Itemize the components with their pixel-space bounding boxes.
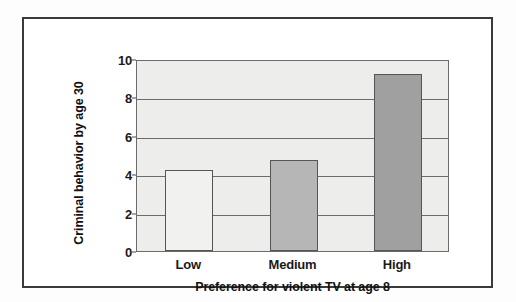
- y-axis-title: Criminal behavior by age 30: [72, 67, 86, 259]
- x-tick-label-high: High: [383, 257, 411, 272]
- x-tick-label-medium: Medium: [269, 257, 317, 272]
- y-axis-ticks: 0246810: [102, 60, 132, 252]
- bar-medium: [270, 160, 318, 251]
- y-tick-label: 0: [106, 245, 132, 260]
- y-tick-label: 4: [106, 168, 132, 183]
- x-axis-ticks: LowMediumHigh: [136, 257, 449, 277]
- chart-outer-frame: Criminal behavior by age 30 0246810 LowM…: [22, 17, 493, 288]
- y-tick-label: 6: [106, 129, 132, 144]
- y-tick-label: 2: [106, 206, 132, 221]
- x-tick-label-low: Low: [175, 257, 200, 272]
- bar-high: [374, 74, 422, 251]
- figure-canvas: Criminal behavior by age 30 0246810 LowM…: [0, 0, 516, 302]
- y-tick-label: 10: [106, 53, 132, 68]
- x-axis-title: Preference for violent TV at age 8: [136, 280, 449, 294]
- y-tick-label: 8: [106, 91, 132, 106]
- plot-area: [136, 60, 449, 252]
- bar-low: [165, 170, 213, 251]
